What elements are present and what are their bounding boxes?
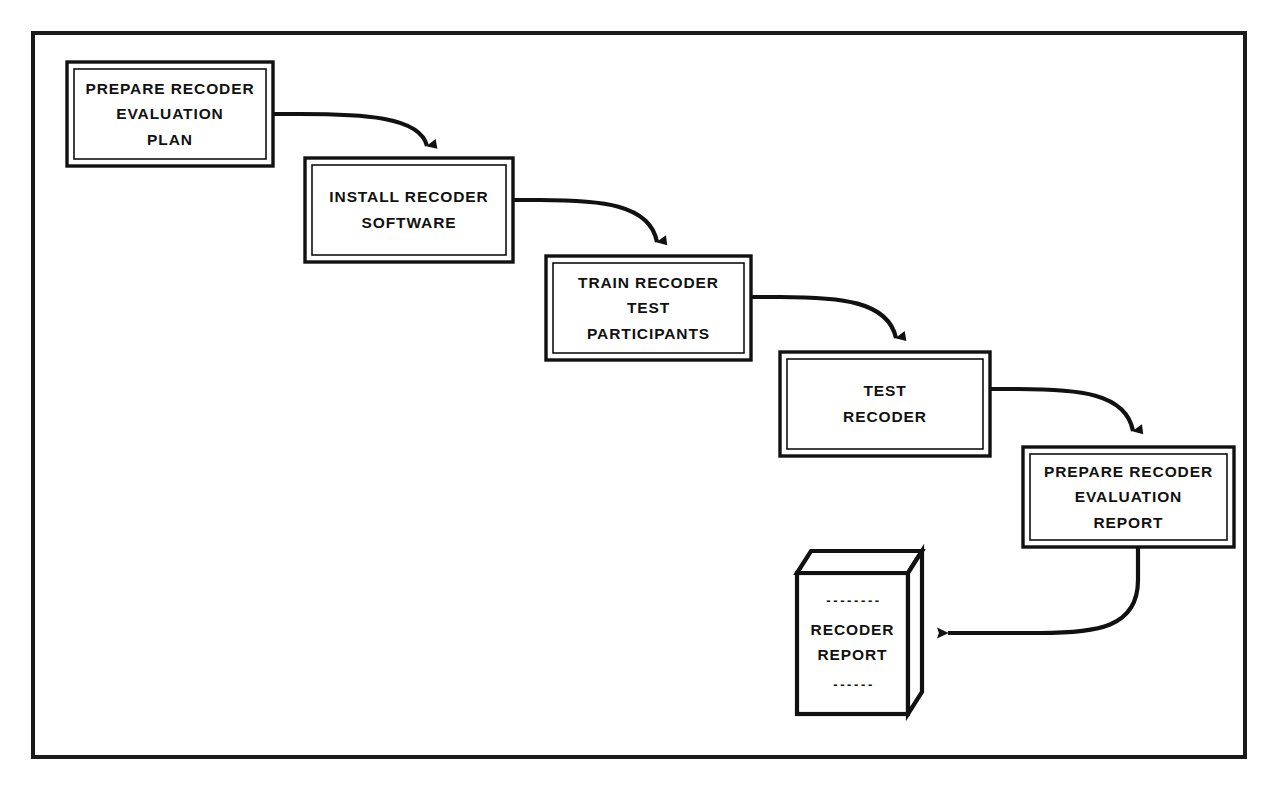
process-box-train-participants[interactable] (546, 256, 751, 360)
connector-report-to-document (948, 547, 1138, 633)
connector-plan-to-install (273, 114, 427, 146)
process-box-prepare-plan[interactable] (67, 62, 273, 166)
process-box-test-recoder[interactable] (780, 352, 990, 456)
document-shape-recoder-report[interactable] (797, 551, 922, 714)
connector-train-to-test (751, 297, 896, 338)
process-box-install-software[interactable] (305, 158, 513, 262)
flowchart-canvas (0, 0, 1272, 788)
connector-install-to-train (513, 200, 657, 242)
connector-test-to-report (990, 389, 1133, 431)
flowchart-diagram: PREPARE RECODER EVALUATION PLAN INSTALL … (0, 0, 1272, 788)
process-box-prepare-report[interactable] (1023, 447, 1234, 547)
